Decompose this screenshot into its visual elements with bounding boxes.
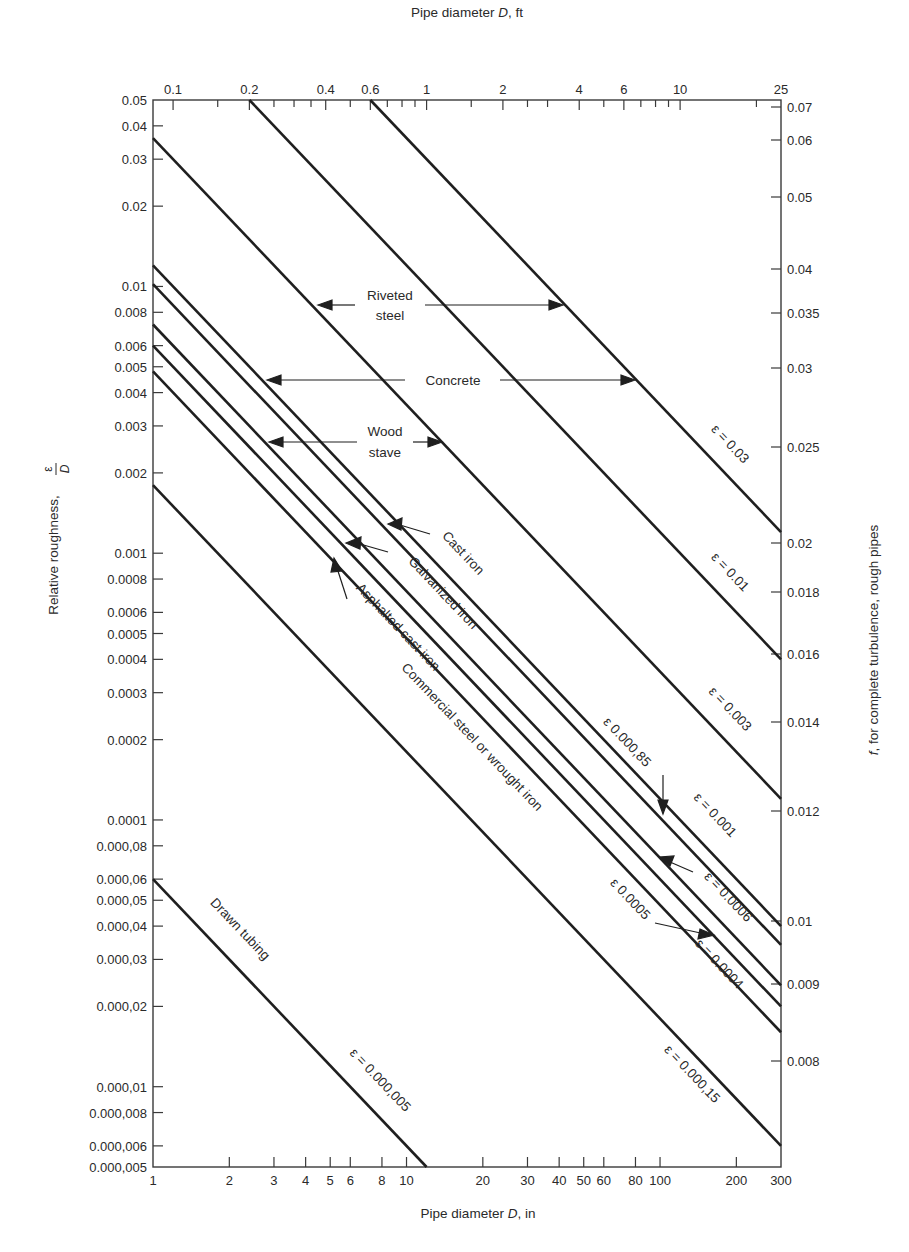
- y2-tick-label: 0.025: [787, 440, 820, 455]
- x-tick-label: 60: [597, 1173, 611, 1188]
- annotation-label: Wood: [367, 424, 402, 439]
- plot-frame: [153, 100, 781, 1167]
- y2-tick-label: 0.014: [787, 715, 820, 730]
- x-tick-label: 20: [476, 1173, 490, 1188]
- annotation-label: Asphalted cast iron: [353, 580, 443, 674]
- x2-tick-label: 0.1: [164, 82, 182, 97]
- y-tick-label: 0.02: [122, 199, 147, 214]
- x-tick-label: 2: [226, 1173, 233, 1188]
- annotation-label: steel: [376, 308, 405, 323]
- y-tick-label: 0.01: [122, 279, 147, 294]
- roughness-line: [370, 100, 781, 532]
- y2-tick-label: 0.008: [787, 1054, 820, 1069]
- y-tick-label: 0.003: [114, 419, 147, 434]
- y-tick-label: 0.004: [114, 386, 147, 401]
- y-tick-label: 0.0006: [107, 605, 147, 620]
- y-tick-label: 0.04: [122, 119, 147, 134]
- left-axis-title: Relative roughness,: [46, 495, 61, 614]
- x2-tick-label: 0.4: [317, 82, 335, 97]
- moody-roughness-chart: 123456810203040506080100200300 0.10.20.4…: [0, 0, 909, 1252]
- roughness-line: [153, 879, 427, 1167]
- annotation-labels: RivetedsteelConcreteWoodstaveCast ironGa…: [207, 288, 755, 1115]
- x-tick-label: 10: [399, 1173, 413, 1188]
- y-tick-label: 0.001: [114, 546, 147, 561]
- y-tick-label: 0.000,006: [89, 1139, 147, 1154]
- annotation-label: Concrete: [426, 373, 481, 388]
- x2-tick-label: 6: [620, 82, 627, 97]
- y2-tick-label: 0.01: [787, 914, 812, 929]
- annotation-label: ε = 0.000,005: [347, 1045, 414, 1114]
- y-tick-label: 0.002: [114, 466, 147, 481]
- x2-tick-label: 4: [576, 82, 583, 97]
- y-tick-label: 0.0001: [107, 813, 147, 828]
- annotation-label: ε = 0.0004: [692, 936, 746, 992]
- right-axis-title: f, for complete turbulence, rough pipes: [866, 525, 881, 756]
- roughness-line: [153, 485, 781, 1146]
- y-tick-label: 0.000,01: [96, 1080, 147, 1095]
- x2-tick-label: 25: [774, 82, 788, 97]
- x-tick-label: 4: [302, 1173, 309, 1188]
- y-tick-label: 0.0003: [107, 686, 147, 701]
- y2-tick-label: 0.03: [787, 361, 812, 376]
- x-tick-label: 5: [327, 1173, 334, 1188]
- x-tick-label: 80: [628, 1173, 642, 1188]
- y2-tick-label: 0.06: [787, 133, 812, 148]
- x2-tick-label: 2: [499, 82, 506, 97]
- annotation-label: ε = 0.01: [708, 549, 752, 594]
- x-tick-label: 6: [347, 1173, 354, 1188]
- y-tick-label: 0.005: [114, 360, 147, 375]
- x-tick-label: 1: [149, 1173, 156, 1188]
- y2-tick-label: 0.035: [787, 306, 820, 321]
- y-tick-label: 0.000,08: [96, 839, 147, 854]
- x2-tick-label: 10: [673, 82, 687, 97]
- y-tick-label: 0.000,005: [89, 1160, 147, 1175]
- annotation-label: Riveted: [367, 288, 413, 303]
- y-tick-label: 0.000,04: [96, 919, 147, 934]
- left-axis-frac-num: ε: [41, 466, 55, 472]
- top-axis-title: Pipe diameter D, ft: [411, 5, 523, 20]
- annotation-label: ε 0.0005: [607, 875, 653, 922]
- y-tick-label: 0.000,008: [89, 1106, 147, 1121]
- annotation-label: ε = 0.0006: [701, 869, 755, 925]
- y-tick-label: 0.000,05: [96, 893, 147, 908]
- y2-tick-label: 0.04: [787, 262, 812, 277]
- y2-tick-label: 0.009: [787, 977, 820, 992]
- y2-tick-label: 0.02: [787, 536, 812, 551]
- x-tick-label: 3: [270, 1173, 277, 1188]
- x-axis-bottom: 123456810203040506080100200300: [149, 1157, 791, 1188]
- y-tick-label: 0.0002: [107, 733, 147, 748]
- y-tick-label: 0.0005: [107, 627, 147, 642]
- x-tick-label: 30: [520, 1173, 534, 1188]
- x2-tick-label: 0.2: [240, 82, 258, 97]
- y-tick-label: 0.000,02: [96, 999, 147, 1014]
- annotation-label: stave: [369, 445, 401, 460]
- x-tick-label: 40: [552, 1173, 566, 1188]
- y-tick-label: 0.0004: [107, 652, 147, 667]
- x2-tick-label: 1: [423, 82, 430, 97]
- y2-tick-label: 0.07: [787, 100, 812, 115]
- y-tick-label: 0.000,06: [96, 872, 147, 887]
- y-tick-label: 0.006: [114, 339, 147, 354]
- y-tick-label: 0.0008: [107, 572, 147, 587]
- annotation-label: ε 0.000,85: [600, 714, 654, 770]
- roughness-line: [153, 138, 781, 799]
- x-tick-label: 300: [770, 1173, 792, 1188]
- left-axis-frac-den: D: [58, 464, 72, 473]
- y-tick-label: 0.000,03: [96, 952, 147, 967]
- x2-tick-label: 0.6: [361, 82, 379, 97]
- x-tick-label: 200: [726, 1173, 748, 1188]
- y2-tick-label: 0.05: [787, 190, 812, 205]
- x-axis-top: 0.10.20.40.612461025: [164, 82, 788, 110]
- annotation-label: ε = 0.03: [708, 421, 752, 466]
- bottom-axis-title: Pipe diameter D, in: [421, 1206, 536, 1221]
- roughness-line: [153, 346, 781, 1007]
- x-tick-label: 50: [576, 1173, 590, 1188]
- roughness-line: [153, 325, 781, 986]
- y2-tick-label: 0.018: [787, 585, 820, 600]
- y-tick-label: 0.03: [122, 152, 147, 167]
- y-tick-label: 0.008: [114, 305, 147, 320]
- y2-tick-label: 0.012: [787, 804, 820, 819]
- y-axis-left: 0.050.040.030.020.010.0080.0060.0050.004…: [89, 93, 163, 1175]
- roughness-lines: [153, 100, 781, 1167]
- x-tick-label: 8: [378, 1173, 385, 1188]
